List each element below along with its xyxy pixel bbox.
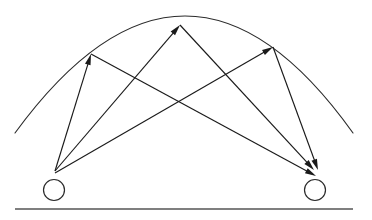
ray-left-to-mid-arc [55,31,175,171]
ray-left-hub-to-right-arc-arrowhead [262,47,273,55]
reflecting-arc [15,16,353,133]
ray-diagram-canvas [0,0,372,220]
rays-group [55,25,318,176]
ray-right-arc-to-right-hub [273,47,315,163]
ray-left-to-left-arc [55,62,89,171]
left-node[interactable] [44,180,65,201]
ray-mid-arc-to-right-hub [180,25,309,164]
ray-left-arc-to-right-hub [91,54,309,172]
diagram-root [0,0,372,220]
ray-left-arc-to-right-hub-arrowhead [305,168,316,176]
right-node[interactable] [305,180,326,201]
